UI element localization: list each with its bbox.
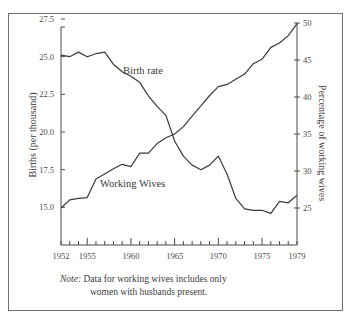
birth-rate-label: Birth rate bbox=[123, 65, 163, 76]
right-tick-label: 30 bbox=[303, 166, 312, 176]
working-wives-line bbox=[61, 24, 297, 208]
x-tick-label: 1955 bbox=[79, 251, 96, 261]
x-tick-label: 1960 bbox=[122, 251, 139, 261]
note-line-1: Data for working wives includes only bbox=[81, 274, 227, 284]
chart-note: Note: Data for working wives includes on… bbox=[60, 273, 227, 299]
right-tick-label: 35 bbox=[303, 129, 312, 139]
note-lead: Note: bbox=[60, 274, 81, 284]
left-tick-label: 25.0 bbox=[39, 52, 54, 62]
axes bbox=[61, 23, 297, 245]
left-tick-label: 17.5 bbox=[39, 165, 54, 175]
note-line-2: women with husbands present. bbox=[60, 286, 227, 299]
x-tick-label: 1970 bbox=[210, 251, 227, 261]
x-tick-label: 1952 bbox=[53, 251, 70, 261]
birth-rate-line bbox=[61, 52, 297, 213]
left-tick-label: 15.0 bbox=[39, 202, 54, 212]
left-axis-title: Births (per thousand) bbox=[27, 93, 39, 178]
right-tick-label: 40 bbox=[303, 92, 312, 102]
ticks: 15.017.520.022.525.027.52530354045501952… bbox=[39, 14, 311, 261]
working-wives-label: Working Wives bbox=[100, 178, 165, 189]
x-tick-label: 1965 bbox=[166, 251, 183, 261]
right-tick-label: 45 bbox=[303, 55, 312, 65]
dual-axis-line-chart: 15.017.520.022.525.027.52530354045501952… bbox=[0, 0, 351, 318]
x-tick-label: 1979 bbox=[289, 251, 306, 261]
x-tick-label: 1975 bbox=[254, 251, 271, 261]
right-tick-label: 25 bbox=[303, 203, 312, 213]
right-tick-label: 50 bbox=[303, 18, 312, 28]
left-tick-label: 20.0 bbox=[39, 127, 54, 137]
right-axis-title: Percentage of working wives bbox=[317, 85, 328, 201]
left-tick-label: 22.5 bbox=[39, 89, 54, 99]
left-tick-label: 27.5 bbox=[39, 14, 54, 24]
series-lines bbox=[61, 24, 297, 214]
